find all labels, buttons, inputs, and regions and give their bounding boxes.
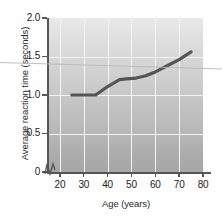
x-tick-mark [178, 172, 179, 177]
plot-area [48, 18, 203, 172]
y-tick-mark [42, 56, 47, 57]
x-tick-mark [107, 172, 108, 177]
y-tick-mark [42, 94, 47, 95]
x-tick-mark [59, 172, 60, 177]
y-tick-label: 0.5 [0, 127, 40, 138]
x-tick-mark [83, 172, 84, 177]
x-axis-line [47, 172, 211, 174]
y-tick-label: 0 [0, 166, 40, 177]
y-tick-label: 1.0 [0, 89, 40, 100]
x-tick-mark [155, 172, 156, 177]
data-series-line [48, 18, 203, 172]
y-tick-mark [42, 133, 47, 134]
y-tick-label: 2.0 [0, 12, 40, 23]
y-axis-line [47, 18, 49, 172]
axis-break-icon [42, 160, 58, 176]
y-tick-mark [42, 17, 47, 18]
x-axis-title: Age (years) [48, 198, 204, 209]
x-tick-mark [202, 172, 203, 177]
x-tick-mark [131, 172, 132, 177]
x-tick-label: 80 [188, 179, 218, 190]
y-tick-label: 1.5 [0, 50, 40, 61]
reaction-time-line-chart: Average reaction time (seconds) Age (yea… [0, 0, 222, 218]
